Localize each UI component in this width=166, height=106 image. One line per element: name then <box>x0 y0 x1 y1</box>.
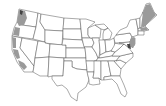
state-north-dakota <box>63 18 81 29</box>
state-connecticut <box>138 31 144 35</box>
state-south-dakota <box>63 29 82 40</box>
state-mississippi <box>93 61 101 80</box>
us-map <box>0 0 166 106</box>
state-iowa <box>82 38 94 47</box>
highlight-new-england <box>141 4 156 27</box>
state-kansas <box>66 48 86 58</box>
state-colorado <box>49 44 66 58</box>
state-new-mexico <box>48 57 64 77</box>
state-arizona <box>33 57 49 76</box>
state-wyoming <box>45 30 63 45</box>
states-layer <box>12 3 157 101</box>
state-florida <box>104 76 127 97</box>
